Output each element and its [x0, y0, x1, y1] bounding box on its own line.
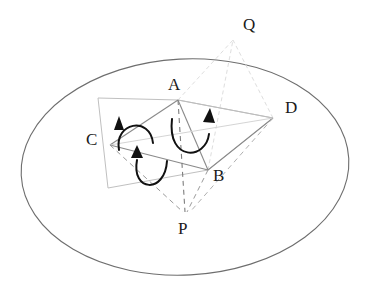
edge-DQ [233, 40, 273, 118]
vertex-label-C: C [86, 131, 97, 148]
geometric-diagram: A B C D P Q [0, 0, 366, 285]
edge-BP [187, 170, 208, 212]
vertex-label-D: D [285, 99, 297, 116]
vertex-label-A: A [168, 76, 180, 93]
rotation-arrow-right [172, 108, 215, 153]
edge-CB [110, 145, 208, 170]
diagram-canvas [0, 0, 366, 285]
arrowhead-left [114, 116, 124, 130]
edge-AD [178, 100, 273, 118]
edge-BD [208, 118, 273, 170]
apex-q-edges [178, 40, 273, 170]
vertex-label-B: B [213, 167, 224, 184]
ellipse-group [16, 51, 355, 284]
vertex-label-P: P [178, 220, 187, 237]
rotation-arrows [114, 108, 215, 185]
edge-DP [190, 118, 273, 212]
rotation-arrow-left [114, 116, 153, 150]
vertex-label-Q: Q [243, 16, 255, 33]
solid-edges [110, 100, 273, 170]
edge-AP [178, 100, 185, 212]
arrowhead-right [203, 108, 215, 123]
rotation-arrow-bottom [131, 145, 167, 185]
edge-CP [110, 145, 183, 212]
edge-CD-light [110, 118, 273, 145]
bounding-ellipse [16, 51, 355, 284]
edge-AQ [178, 40, 233, 100]
arrowhead-bottom [131, 145, 143, 158]
edge-AB [178, 100, 208, 170]
